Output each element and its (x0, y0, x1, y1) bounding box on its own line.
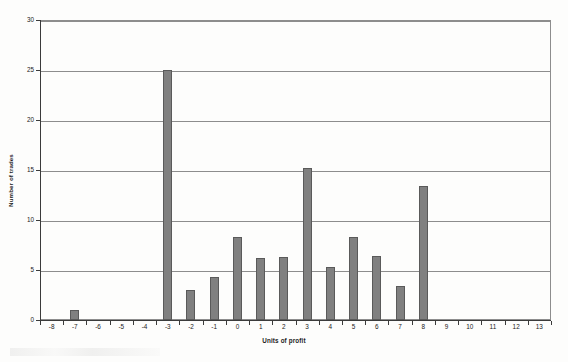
bar (279, 257, 288, 320)
y-tick-label: 5 (18, 267, 34, 273)
x-tick-label: 8 (414, 324, 432, 330)
x-tick-mark (249, 321, 250, 325)
x-tick-label: -5 (112, 324, 130, 330)
x-tick-label: 10 (461, 324, 479, 330)
y-tick-mark (36, 270, 41, 271)
x-tick-label: -2 (182, 324, 200, 330)
x-tick-mark (156, 321, 157, 325)
x-tick-mark (319, 321, 320, 325)
bar (70, 310, 79, 320)
x-tick-label: 7 (391, 324, 409, 330)
bar (349, 237, 358, 320)
x-tick-mark (365, 321, 366, 325)
bar (303, 168, 312, 320)
gridline (40, 21, 550, 22)
x-tick-mark (179, 321, 180, 325)
bar (419, 186, 428, 320)
x-tick-label: 9 (437, 324, 455, 330)
plot-area (40, 20, 551, 320)
x-tick-mark (505, 321, 506, 325)
bar (256, 258, 265, 320)
bar (396, 286, 405, 320)
gridline (40, 121, 550, 122)
bar (233, 237, 242, 320)
x-tick-mark (86, 321, 87, 325)
x-tick-mark (203, 321, 204, 325)
gridline (40, 71, 550, 72)
x-tick-mark (342, 321, 343, 325)
x-tick-label: -8 (43, 324, 61, 330)
x-tick-label: -1 (205, 324, 223, 330)
x-tick-mark (388, 321, 389, 325)
y-tick-mark (36, 20, 41, 21)
bar (186, 290, 195, 320)
x-tick-mark (435, 321, 436, 325)
x-axis-title: Units of profit (0, 337, 568, 344)
y-tick-mark (36, 170, 41, 171)
y-tick-label: 15 (18, 167, 34, 173)
bar-chart-figure: Number of trades 051015202530 -8-7-6-5-4… (0, 0, 568, 362)
gridline (40, 221, 550, 222)
y-tick-label: 10 (18, 217, 34, 223)
x-tick-label: -7 (66, 324, 84, 330)
y-axis-title-text: Number of trades (7, 154, 14, 207)
y-tick-label: 25 (18, 67, 34, 73)
x-tick-label: 11 (484, 324, 502, 330)
x-tick-label: -3 (159, 324, 177, 330)
scan-artifact (10, 348, 160, 356)
x-tick-label: 4 (321, 324, 339, 330)
x-tick-mark (458, 321, 459, 325)
x-tick-label: 12 (507, 324, 525, 330)
x-tick-label: 13 (530, 324, 548, 330)
bar (210, 277, 219, 320)
bar (372, 256, 381, 320)
x-tick-mark (133, 321, 134, 325)
x-tick-mark (272, 321, 273, 325)
x-tick-mark (226, 321, 227, 325)
y-tick-mark (36, 120, 41, 121)
gridline (40, 171, 550, 172)
x-tick-mark (551, 321, 552, 325)
x-tick-mark (528, 321, 529, 325)
x-tick-mark (40, 321, 41, 325)
x-tick-label: 6 (368, 324, 386, 330)
y-tick-label: 30 (18, 17, 34, 23)
x-tick-mark (296, 321, 297, 325)
y-tick-mark (36, 70, 41, 71)
y-axis-title: Number of trades (0, 130, 20, 230)
x-tick-mark (110, 321, 111, 325)
y-tick-mark (36, 220, 41, 221)
x-tick-mark (412, 321, 413, 325)
x-tick-mark (63, 321, 64, 325)
bar (326, 267, 335, 320)
y-tick-label: 0 (18, 317, 34, 323)
y-tick-label: 20 (18, 117, 34, 123)
bar (163, 70, 172, 320)
x-tick-label: -4 (136, 324, 154, 330)
x-tick-label: 2 (275, 324, 293, 330)
x-tick-mark (481, 321, 482, 325)
x-tick-label: 1 (252, 324, 270, 330)
x-tick-label: 0 (228, 324, 246, 330)
x-tick-label: 3 (298, 324, 316, 330)
gridline (40, 271, 550, 272)
x-tick-label: -6 (89, 324, 107, 330)
x-tick-label: 5 (345, 324, 363, 330)
